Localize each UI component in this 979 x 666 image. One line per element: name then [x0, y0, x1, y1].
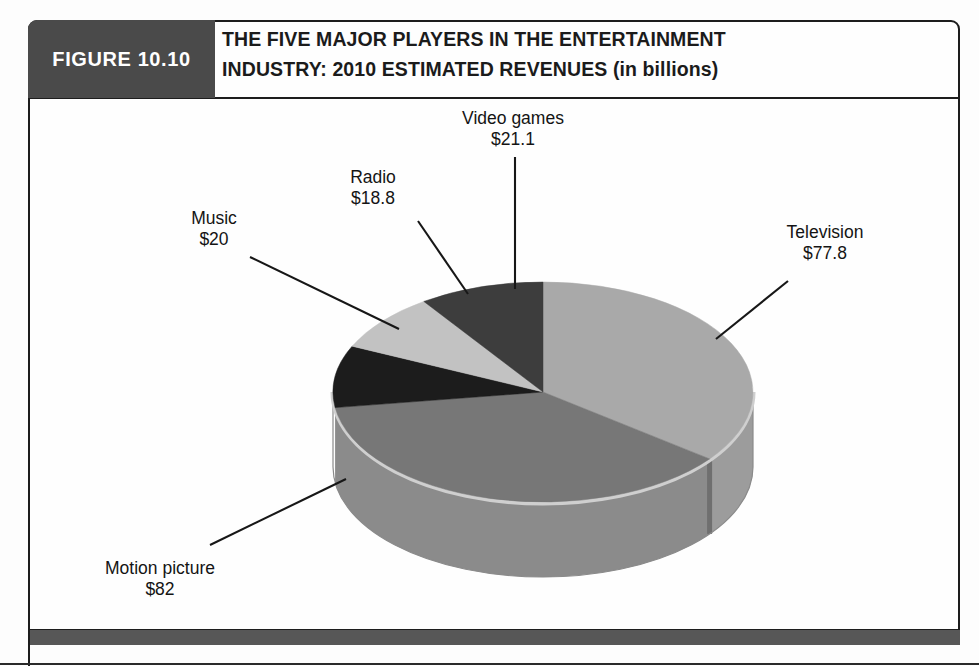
page-bottom-rule — [0, 663, 979, 665]
figure-title-line-2: INDUSTRY: 2010 ESTIMATED REVENUES (in bi… — [222, 54, 922, 84]
pie-top-surface — [333, 282, 753, 502]
slice-label-television-value: $77.8 — [752, 243, 898, 264]
slice-label-music-value: $20 — [160, 229, 268, 250]
figure-page: FIGURE 10.10 THE FIVE MAJOR PLAYERS IN T… — [0, 0, 979, 666]
slice-label-video-games-value: $21.1 — [443, 129, 583, 150]
side-wall-seam — [707, 459, 712, 534]
slice-label-video-games-name: Video games — [462, 108, 564, 128]
slice-label-radio-name: Radio — [350, 167, 396, 187]
figure-title-line-1: THE FIVE MAJOR PLAYERS IN THE ENTERTAINM… — [222, 24, 922, 54]
leader-line-music — [250, 257, 399, 329]
figure-number-label: FIGURE 10.10 — [52, 48, 190, 71]
figure-left-tick — [28, 631, 30, 666]
slice-label-television: Television $77.8 — [752, 222, 898, 264]
slice-label-music-name: Music — [191, 208, 237, 228]
figure-bottom-bar — [30, 630, 960, 645]
pie-chart-canvas — [28, 99, 960, 629]
leader-line-radio — [418, 221, 468, 294]
leader-line-television — [716, 281, 788, 339]
leader-line-motion-picture — [210, 479, 346, 545]
slice-label-video-games: Video games $21.1 — [443, 108, 583, 150]
slice-label-radio: Radio $18.8 — [318, 167, 428, 209]
slice-label-radio-value: $18.8 — [318, 188, 428, 209]
figure-title: THE FIVE MAJOR PLAYERS IN THE ENTERTAINM… — [222, 24, 922, 84]
slice-label-television-name: Television — [787, 222, 864, 242]
slice-label-motion-picture-name: Motion picture — [105, 558, 215, 578]
figure-number-tab: FIGURE 10.10 — [28, 20, 215, 98]
pie-chart — [28, 99, 960, 629]
slice-label-music: Music $20 — [160, 208, 268, 250]
slice-label-motion-picture-value: $82 — [62, 579, 258, 600]
slice-label-motion-picture: Motion picture $82 — [62, 558, 258, 600]
